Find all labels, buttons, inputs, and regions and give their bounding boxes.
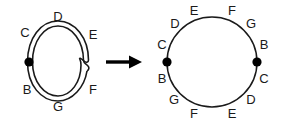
left-diagram-group: D C E B F G xyxy=(20,9,97,114)
right-label-E-top-left: E xyxy=(190,3,199,18)
inner-loop-lower-path xyxy=(33,58,82,96)
left-basepoint-dot xyxy=(24,57,33,66)
right-diagram-group: E F D G C B B C G D F E xyxy=(157,3,268,121)
right-basepoint-dot-left xyxy=(162,57,171,66)
left-label-C: C xyxy=(20,25,29,40)
left-label-B: B xyxy=(23,82,32,97)
right-label-D-upper-left: D xyxy=(170,16,179,31)
right-label-C-right-lower: C xyxy=(259,71,268,86)
right-label-F-bottom-left: F xyxy=(190,106,198,121)
right-label-D-lower-right: D xyxy=(246,92,255,107)
right-label-B-left-lower: B xyxy=(158,71,167,86)
left-label-E: E xyxy=(89,27,98,42)
right-label-B-right-upper: B xyxy=(260,37,269,52)
right-label-E-bottom-right: E xyxy=(228,106,237,121)
left-label-F: F xyxy=(89,82,97,97)
transformation-arrow xyxy=(106,56,142,69)
left-label-G: G xyxy=(53,99,63,114)
arrow-head-icon xyxy=(129,56,142,69)
right-label-G-lower-left: G xyxy=(169,92,179,107)
right-basepoint-dot-right xyxy=(252,57,261,66)
result-circle-path xyxy=(167,17,257,107)
right-label-C-left-upper: C xyxy=(157,37,166,52)
right-label-G-upper-right: G xyxy=(246,16,256,31)
left-label-D: D xyxy=(53,9,62,24)
loop-transformation-figure: D C E B F G E F D G C B B C G D F xyxy=(0,0,284,130)
right-label-F-top-right: F xyxy=(228,3,236,18)
diagram-canvas: D C E B F G E F D G C B B C G D F xyxy=(0,0,284,130)
